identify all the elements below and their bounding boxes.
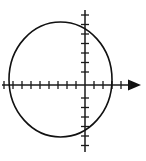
math-graph-figure: Hand-drawn circle plotted on a pair of t… — [0, 0, 146, 161]
coordinate-plane-svg — [0, 0, 146, 161]
